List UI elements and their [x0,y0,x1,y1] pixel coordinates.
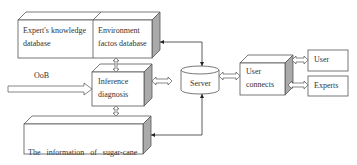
inference-label: Inference diagnosis [98,77,128,100]
arrowhead-to-db [160,40,164,44]
env-db-line2: factos database [98,39,147,49]
user-connects-label: User connects [246,67,274,90]
double-arrow-server-userconnects [219,72,240,80]
double-arrow-userconnects-user [292,56,308,64]
arrowhead-server-top [200,62,204,66]
double-arrow-inference-remote [113,106,119,116]
expert-db-line2: database [23,39,86,49]
arrowhead-to-remote [151,133,155,137]
inference-line2: diagnosis [98,90,128,100]
remote-info-label: The information of sugar-cane monitoring… [28,128,142,165]
oob-label: OoB [34,71,49,81]
server-label: Server [190,79,211,89]
connector-server-to-remote [151,94,202,135]
inference-line1: Inference [98,77,128,87]
user-label: User [314,55,329,65]
experts-label: Experts [314,81,338,91]
arrowhead-server-bottom [200,94,204,98]
expert-db-line1: Expert's knowledge [23,26,86,36]
remote-info-line1: The information of sugar-cane [28,148,142,158]
env-db-label: Environment factos database [98,26,147,49]
double-arrow-userconnects-experts [288,81,308,89]
user-connects-line2: connects [246,80,274,90]
user-connects-line1: User [246,67,274,77]
oob-input-arrow [8,83,92,95]
env-db-line1: Environment [98,26,147,36]
connector-server-to-db [160,42,202,66]
expert-db-label: Expert's knowledge database [23,26,86,49]
double-arrow-inference-server [152,77,172,85]
